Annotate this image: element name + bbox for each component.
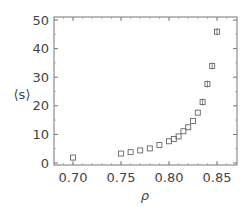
chart-canvas: 01020304050 0.700.750.800.85 ⟨s⟩ ρ bbox=[0, 0, 249, 207]
y-tick-label: 30 bbox=[32, 70, 49, 85]
y-axis-label: ⟨s⟩ bbox=[14, 87, 31, 102]
data-point bbox=[138, 148, 143, 153]
plot-frame bbox=[54, 17, 237, 165]
data-point bbox=[210, 63, 215, 70]
data-point bbox=[215, 28, 220, 35]
y-tick-label: 50 bbox=[32, 13, 49, 28]
x-tick-label: 0.75 bbox=[107, 170, 136, 185]
data-point bbox=[167, 139, 172, 144]
data-point bbox=[186, 125, 191, 130]
data-point bbox=[195, 110, 200, 115]
y-tick-label: 0 bbox=[41, 156, 49, 171]
data-point bbox=[147, 146, 152, 151]
data-point bbox=[171, 136, 176, 141]
data-point bbox=[191, 118, 196, 123]
data-point bbox=[119, 151, 124, 156]
data-point bbox=[181, 129, 186, 134]
data-point bbox=[200, 99, 205, 106]
data-point bbox=[128, 150, 133, 155]
data-points bbox=[71, 28, 220, 160]
x-axis-label: ρ bbox=[141, 188, 150, 203]
y-tick-label: 10 bbox=[32, 127, 49, 142]
data-point bbox=[71, 155, 76, 160]
x-tick-label: 0.80 bbox=[155, 170, 184, 185]
data-point bbox=[157, 142, 162, 147]
y-tick-label: 40 bbox=[32, 41, 49, 56]
data-point bbox=[176, 134, 181, 139]
y-tick-label: 20 bbox=[32, 98, 49, 113]
data-point bbox=[205, 81, 210, 88]
y-axis: 01020304050 bbox=[32, 13, 237, 171]
x-tick-label: 0.70 bbox=[59, 170, 88, 185]
scatter-chart: 01020304050 0.700.750.800.85 ⟨s⟩ ρ bbox=[0, 0, 249, 207]
x-tick-label: 0.85 bbox=[203, 170, 232, 185]
